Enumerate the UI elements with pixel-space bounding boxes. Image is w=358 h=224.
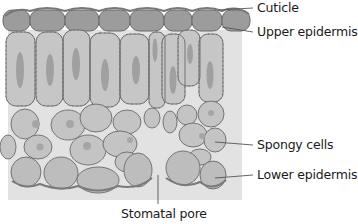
label-lower-epidermis: Lower epidermis <box>257 169 357 182</box>
label-spongy-cells: Spongy cells <box>257 139 333 152</box>
label-stomatal-pore: Stomatal pore <box>121 208 207 221</box>
label-upper-epidermis: Upper epidermis <box>257 26 358 39</box>
label-cuticle: Cuticle <box>257 2 299 15</box>
upper-epidermis-layer <box>3 10 250 31</box>
